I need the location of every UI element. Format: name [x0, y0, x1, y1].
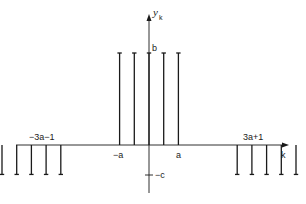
x-axis-arrow-icon	[282, 143, 289, 148]
tick-label-far-right: 3a+1	[243, 132, 263, 142]
tick-label-left-inner: −a	[113, 150, 123, 160]
y-axis-arrow-icon	[147, 14, 152, 21]
level-label-b: b	[152, 43, 157, 53]
y-axis-label: y	[152, 6, 158, 18]
tick-label-far-left: −3a−1	[29, 132, 55, 142]
labels: y k k b −c −3a−1 −a a 3a+1	[29, 6, 286, 180]
axes	[16, 14, 289, 193]
tick-label-right-inner: a	[176, 150, 181, 160]
level-label-neg-c: −c	[155, 170, 165, 180]
y-axis-subscript: k	[159, 14, 163, 21]
x-axis-label: k	[281, 150, 286, 160]
stem-plot: y k k b −c −3a−1 −a a 3a+1	[0, 0, 306, 204]
